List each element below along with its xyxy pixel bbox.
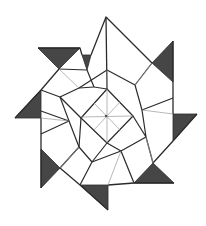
fold-upper-left: [59, 69, 79, 88]
dark-flap-lower-right: [134, 163, 174, 183]
dark-flap-upper-left: [38, 48, 80, 69]
panel-lower-right: [107, 137, 146, 151]
panel-lower-right-b: [121, 151, 134, 183]
lower-right-edge: [108, 183, 174, 185]
panel-upper-right: [135, 85, 173, 110]
panel-upper-left-b: [60, 97, 69, 121]
fold-bottom: [108, 151, 121, 185]
pinwheel-star-diagram: [0, 0, 206, 226]
panel-left-c: [60, 97, 81, 118]
panel-upper-left: [41, 88, 79, 97]
top-point-edge: [91, 17, 152, 63]
panel-upper: [59, 69, 94, 87]
dark-flap-upper-left-small: [82, 55, 91, 70]
dark-flap-lower-left: [41, 149, 60, 188]
center-dot: [105, 115, 107, 117]
panel-right: [133, 110, 146, 137]
panel-upper-left-d: [94, 87, 107, 89]
dark-flaps: [15, 41, 197, 210]
fold-lower-left: [60, 147, 79, 168]
fold-lower-right: [146, 137, 153, 163]
panel-left: [41, 121, 79, 147]
fold-upper-right: [135, 63, 152, 85]
inner-square: [81, 89, 133, 143]
dark-flap-upper-right: [152, 41, 173, 82]
fold-right: [142, 110, 173, 114]
panel-lower-left-b: [79, 118, 81, 147]
